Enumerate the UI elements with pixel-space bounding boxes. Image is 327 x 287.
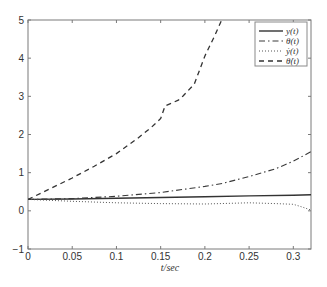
x-tick-label: 0.1 (109, 251, 123, 262)
legend-label: ẏ(t) (285, 46, 299, 56)
legend: y(t)θ(t)ẏ(t)θ̇(t) (255, 22, 307, 66)
x-tick-label: 0.3 (286, 251, 300, 262)
line-chart: 00.050.10.150.20.250.3 −1012345 t/sec y(… (0, 0, 327, 287)
x-axis-label: t/sec (161, 262, 180, 273)
legend-label: y(t) (285, 26, 299, 36)
x-tick-label: 0 (25, 251, 31, 262)
y-tick-label: 5 (18, 15, 24, 26)
y-tick-label: 1 (18, 167, 24, 178)
y-tick-label: 2 (18, 129, 24, 140)
y-tick-label: 0 (18, 205, 24, 216)
x-tick-label: 0.05 (62, 251, 82, 262)
legend-label: θ̇(t) (286, 56, 299, 66)
legend-box (255, 22, 307, 66)
y-tick-label: 3 (18, 91, 24, 102)
x-tick-label: 0.15 (151, 251, 171, 262)
x-tick-label: 0.25 (239, 251, 259, 262)
y-tick-label: −1 (13, 244, 25, 255)
legend-label: θ(t) (286, 36, 299, 46)
x-tick-label: 0.2 (198, 251, 212, 262)
y-tick-label: 4 (18, 53, 24, 64)
